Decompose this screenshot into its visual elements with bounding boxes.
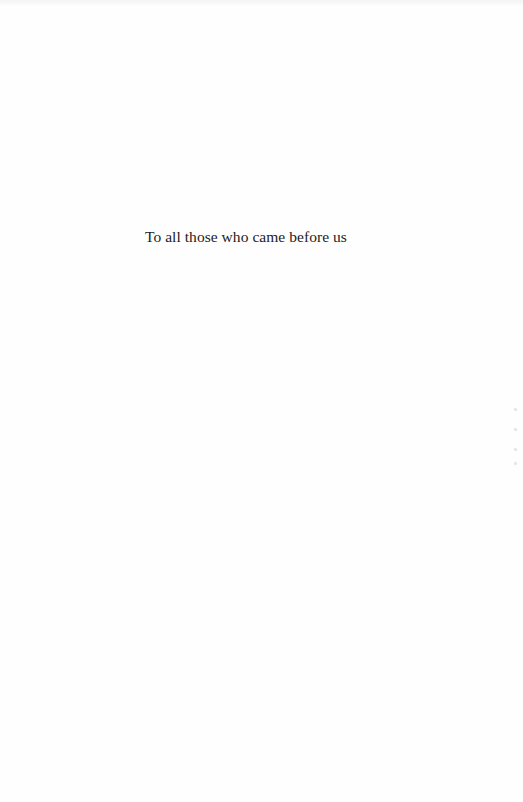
scan-speck	[514, 462, 517, 465]
scan-speck	[514, 448, 517, 451]
scan-top-edge	[0, 0, 523, 6]
book-page: To all those who came before us	[0, 0, 523, 802]
scan-speck	[514, 428, 517, 431]
dedication-text: To all those who came before us	[145, 228, 347, 246]
scan-artifacts	[514, 400, 520, 480]
scan-speck	[514, 408, 517, 411]
